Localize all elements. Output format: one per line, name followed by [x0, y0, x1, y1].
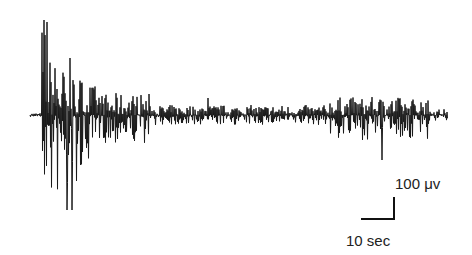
amplitude-scale-label: 100 μv	[395, 176, 440, 191]
voltage-trace	[30, 20, 448, 210]
time-scale-label: 10 sec	[346, 233, 390, 248]
waveform-chart	[0, 0, 472, 255]
scale-bar	[361, 197, 395, 219]
